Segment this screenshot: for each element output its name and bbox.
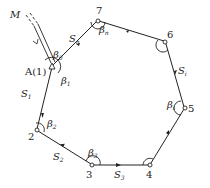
label-station-3: 3 (86, 169, 92, 180)
label-beta1: β1 (60, 75, 71, 87)
label-station-5: 5 (188, 103, 194, 114)
arrow-icon (166, 130, 169, 135)
station-points (35, 19, 187, 167)
direction-arrows (41, 30, 177, 167)
station-7-point (96, 19, 100, 23)
arrow-icon (116, 163, 121, 167)
label-side-s1: S1 (21, 88, 32, 100)
label-a1: A(1) (24, 66, 46, 77)
label-side-s3: S3 (114, 169, 125, 181)
label-station-4: 4 (146, 169, 152, 180)
side-6-7 (99, 21, 164, 41)
label-side-sn: Sn (69, 33, 80, 45)
label-beta-i: βi (166, 99, 175, 111)
traverse-sides (37, 21, 184, 165)
side-2-3 (38, 131, 91, 164)
station-2-point (35, 128, 39, 132)
arrow-icon (126, 30, 129, 33)
angle-arc-5 (174, 101, 181, 115)
label-station-7: 7 (96, 5, 102, 16)
label-beta0: β0 (52, 49, 63, 61)
reference-line-m (26, 13, 55, 63)
label-m: M (9, 9, 21, 20)
station-3-point (90, 163, 94, 167)
station-5-point (183, 106, 187, 110)
label-station-6: 6 (167, 29, 173, 40)
side-4-5 (151, 109, 184, 163)
arrow-icon (41, 113, 44, 118)
traverse-diagram: M A(1) β0 β1 2 β2 3 β3 4 5 βi 6 7 βn S1 … (0, 0, 210, 188)
label-station-2: 2 (28, 131, 34, 142)
label-side-si: Si (178, 65, 187, 77)
label-beta3: β3 (87, 147, 98, 159)
station-6-point (163, 40, 167, 44)
label-side-s2: S2 (53, 151, 64, 163)
station-4-point (148, 163, 152, 167)
label-beta-n: βn (98, 24, 109, 36)
label-beta2: β2 (46, 118, 57, 130)
